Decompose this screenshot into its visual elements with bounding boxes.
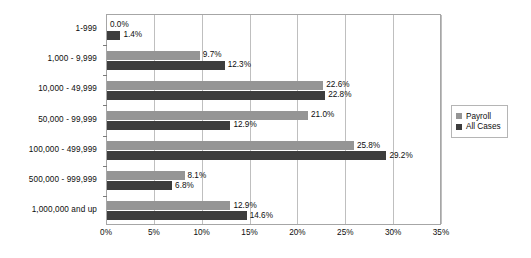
bar-value-label: 22.8%: [328, 91, 351, 99]
bar-payroll: [107, 141, 354, 150]
category-label: 500,000 - 999,999: [0, 175, 97, 184]
bar-all-cases: [107, 151, 386, 160]
bar-value-label: 12.3%: [228, 61, 251, 69]
bar-all-cases: [107, 121, 230, 130]
bar-all-cases: [107, 61, 225, 70]
bar-payroll: [107, 171, 185, 180]
plot-area: 0.0%1.4%9.7%12.3%22.6%22.8%21.0%12.9%25.…: [106, 14, 441, 225]
bar-value-label: 6.8%: [175, 182, 194, 190]
bar-payroll: [107, 201, 230, 210]
bar-chart: 1-9991,000 - 9,99910,000 - 49,99950,000 …: [0, 0, 531, 258]
bar-group: 22.6%22.8%: [107, 75, 440, 105]
bar-payroll: [107, 51, 200, 60]
x-axis-tick-label: 5%: [148, 228, 160, 237]
bar-payroll: [107, 111, 308, 120]
chart-legend: PayrollAll Cases: [451, 105, 508, 138]
x-axis-tick-label: 15%: [241, 228, 257, 237]
bar-group: 9.7%12.3%: [107, 45, 440, 75]
bar-value-label: 0.0%: [110, 21, 129, 29]
x-axis-tick-label: 30%: [385, 228, 401, 237]
bar-value-label: 14.6%: [250, 212, 273, 220]
bar-value-label: 1.4%: [123, 31, 142, 39]
category-label: 50,000 - 99,999: [0, 115, 97, 124]
x-axis-tick-label: 20%: [289, 228, 305, 237]
legend-item[interactable]: Payroll: [456, 112, 501, 121]
bar-group: 25.8%29.2%: [107, 136, 440, 166]
category-label: 1,000,000 and up: [0, 205, 97, 214]
bar-value-label: 22.6%: [326, 81, 349, 89]
bar-all-cases: [107, 211, 247, 220]
bar-value-label: 12.9%: [233, 202, 256, 210]
bar-all-cases: [107, 91, 325, 100]
x-axis-tick-label: 25%: [337, 228, 353, 237]
legend-label: All Cases: [466, 122, 501, 131]
bar-value-label: 9.7%: [203, 51, 222, 59]
legend-swatch-icon: [456, 124, 462, 130]
bar-group: 8.1%6.8%: [107, 166, 440, 196]
legend-label: Payroll: [466, 112, 491, 121]
bar-all-cases: [107, 31, 120, 40]
x-axis-tick-label: 0%: [100, 228, 112, 237]
x-axis-tick-label: 35%: [433, 228, 449, 237]
category-label: 1,000 - 9,999: [0, 54, 97, 63]
bar-value-label: 8.1%: [188, 172, 207, 180]
legend-swatch-icon: [456, 113, 462, 119]
category-label: 100,000 - 499,999: [0, 145, 97, 154]
bar-payroll: [107, 81, 323, 90]
bar-group: 12.9%14.6%: [107, 196, 440, 226]
gridline: [441, 15, 442, 224]
bar-group: 0.0%1.4%: [107, 15, 440, 45]
bar-all-cases: [107, 181, 172, 190]
category-axis: 1-9991,000 - 9,99910,000 - 49,99950,000 …: [0, 14, 97, 225]
x-axis-tick-label: 10%: [194, 228, 210, 237]
bar-value-label: 25.8%: [357, 142, 380, 150]
bar-value-label: 21.0%: [311, 111, 334, 119]
bar-group: 21.0%12.9%: [107, 105, 440, 135]
category-label: 10,000 - 49,999: [0, 84, 97, 93]
bar-value-label: 12.9%: [233, 121, 256, 129]
bar-value-label: 29.2%: [389, 152, 412, 160]
category-label: 1-999: [0, 24, 97, 33]
legend-item[interactable]: All Cases: [456, 122, 501, 131]
